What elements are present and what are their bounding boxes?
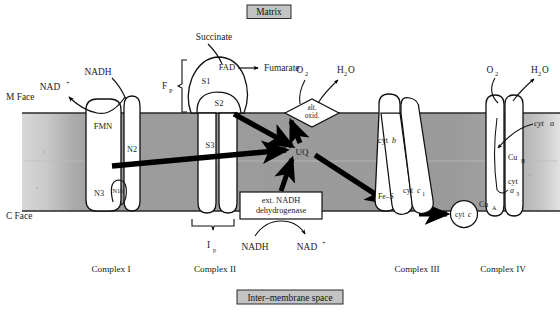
label-cyta-main: cyt	[534, 119, 544, 128]
label-fp-sub: P	[169, 87, 173, 94]
label-o2-left-sub: 2	[305, 70, 308, 77]
complex2-subunit-s3-left	[198, 113, 216, 213]
c-face-label: C Face	[6, 211, 32, 221]
label-cytc-main: cyt	[455, 210, 465, 219]
label-h2o-right-text: H	[531, 65, 538, 75]
label-h2o-left-text: H	[337, 65, 344, 75]
label-cytb-main: cyt	[378, 136, 389, 145]
label-cua-sub: A	[492, 204, 497, 211]
label-o2-right-text: O	[487, 65, 494, 75]
label-uq: UQ	[296, 147, 309, 157]
label-cytb-ital: b	[392, 136, 396, 145]
caption-complex-2: Complex II	[194, 264, 236, 274]
caption-complex-1: Complex I	[91, 264, 130, 274]
label-fumarate: Fumarate	[264, 63, 299, 73]
caption-complex-4: Complex IV	[480, 264, 526, 274]
label-o2-left-text: O	[297, 65, 304, 75]
etc-diagram: Matrix Inter–membrane space M Face C Fac…	[0, 0, 560, 315]
label-ip-main: I	[207, 240, 210, 250]
label-h2o-left-tail: O	[348, 65, 355, 75]
label-h2o-right-tail: O	[542, 65, 549, 75]
complex2-subunit-s3-right	[219, 113, 237, 213]
complex-3-group: cyt b Fe–S cyt c 1	[375, 94, 433, 214]
o2-to-altoxidase-line	[300, 80, 305, 104]
label-cytc1-ital: c	[417, 186, 421, 195]
label-s1: S1	[202, 77, 211, 86]
label-ip-sub: p	[213, 246, 216, 253]
label-h2o-right: H 2 O	[531, 65, 549, 77]
matrix-label: Matrix	[256, 7, 282, 17]
label-fmn: FMN	[94, 121, 113, 131]
label-cub-main: Cu	[508, 153, 517, 162]
ext-nadh-dehydrogenase-group: ext. NADH dehydrogenase	[240, 192, 322, 236]
intermembrane-label: Inter–membrane space	[247, 293, 332, 303]
cyt-c-group: cyt c	[451, 201, 478, 228]
label-cua-main: Cu	[479, 200, 488, 209]
label-fe-s: Fe–S	[378, 192, 394, 201]
caption-complex-3: Complex III	[394, 264, 439, 274]
label-cub-sub: B	[521, 157, 525, 164]
label-nad-left-sup: +	[66, 79, 70, 86]
label-nad-ext-sup: +	[322, 239, 326, 246]
m-face-label: M Face	[6, 92, 34, 102]
label-cyta3-sub: 3	[516, 190, 519, 197]
nadh-leader-line	[112, 78, 126, 99]
ext-nadh-to-nad-arrow	[255, 221, 305, 236]
label-cytc1-main: cyt	[403, 186, 414, 195]
label-ip: I p	[207, 240, 216, 253]
label-cyta3-ital: a	[510, 186, 514, 195]
label-ext-ndh-line2: dehydrogenase	[256, 206, 307, 215]
label-cyt-b: cyt b	[378, 136, 396, 145]
label-o2-right: O 2	[487, 65, 499, 77]
ip-bracket	[192, 219, 234, 230]
intermembrane-label-box: Inter–membrane space	[237, 290, 343, 304]
label-o2-left: O 2	[297, 65, 309, 77]
label-o2-right-sub: 2	[495, 70, 498, 77]
label-h2o-right-sub: 2	[538, 70, 541, 77]
label-h2o-left: H 2 O	[337, 65, 355, 77]
label-nad-left-text: NAD	[40, 82, 61, 92]
label-nad-ext-text: NAD	[297, 242, 318, 252]
label-cyta3-main: cyt	[508, 177, 519, 186]
matrix-label-box: Matrix	[247, 5, 291, 19]
label-h2o-left-sub: 2	[344, 70, 347, 77]
altoxidase-to-h2o-arrow	[318, 80, 338, 103]
label-fp: F P	[162, 81, 173, 94]
label-alt-oxid-line1: alt.	[308, 104, 317, 112]
label-fp-main: F	[162, 81, 167, 91]
fp-bracket	[178, 60, 187, 112]
label-n1b: N1b	[112, 187, 124, 194]
label-succinate: Succinate	[196, 32, 232, 42]
label-s3: S3	[206, 141, 215, 150]
label-ext-ndh-line1: ext. NADH	[262, 196, 301, 205]
complex4-to-h2o-arrow	[513, 79, 534, 101]
label-n3: N3	[94, 189, 104, 198]
label-cyta-ital: a	[550, 119, 554, 128]
label-nad-plus-left: NAD +	[40, 79, 70, 92]
label-nadh-left: NADH	[84, 67, 111, 77]
label-alt-oxid-line2: oxid.	[305, 112, 320, 120]
label-nad-plus-ext: NAD +	[297, 239, 326, 252]
label-cytc1-sub: 1	[422, 190, 425, 197]
label-s2: S2	[215, 99, 224, 108]
label-nadh-ext: NADH	[241, 242, 268, 252]
label-n2: N2	[127, 145, 137, 154]
figure-canvas: Matrix Inter–membrane space M Face C Fac…	[0, 0, 560, 315]
